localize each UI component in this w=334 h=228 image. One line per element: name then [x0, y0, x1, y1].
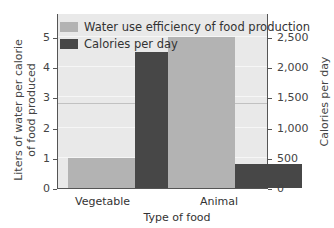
- y-tick-left: 3: [40, 92, 50, 103]
- tick-mark: [268, 98, 272, 99]
- x-category-vegetable: Vegetable: [75, 195, 130, 208]
- y-tick-right: 2,500: [277, 32, 309, 43]
- legend-item-calories: Calories per day: [60, 35, 310, 52]
- tick-mark: [268, 189, 272, 190]
- x-category-animal: Animal: [200, 195, 238, 208]
- y-axis-label-left: Liters of water per calorie of food prod…: [12, 25, 38, 195]
- y-axis-label-right: Calories per day: [318, 42, 331, 162]
- tick-mark: [53, 129, 57, 130]
- y-tick-left: 1: [40, 153, 50, 164]
- y-tick-left: 4: [40, 62, 50, 73]
- tick-mark: [53, 98, 57, 99]
- tick-mark: [268, 68, 272, 69]
- tick-mark: [53, 38, 57, 39]
- y-tick-left: 2: [40, 123, 50, 134]
- legend-item-water: Water use efficiency of food production: [60, 18, 310, 35]
- bar-animal-calories: [235, 164, 302, 188]
- y-tick-right: 1,000: [277, 123, 309, 134]
- y-tick-right: 0: [277, 183, 284, 194]
- legend-swatch-calories: [60, 39, 78, 49]
- tick-mark: [53, 68, 57, 69]
- y-tick-left: 0: [40, 183, 50, 194]
- y-tick-right: 1,500: [277, 92, 309, 103]
- y-axis-label-line1: Liters of water per calorie: [12, 25, 25, 195]
- bar-animal-water: [168, 37, 235, 188]
- legend-label-calories: Calories per day: [84, 37, 178, 51]
- bar-vegetable-water: [68, 158, 135, 188]
- tick-mark: [268, 38, 272, 39]
- y-tick-right: 2,000: [277, 62, 309, 73]
- tick-mark: [268, 129, 272, 130]
- y-tick-right: 500: [277, 153, 298, 164]
- tick-mark: [53, 189, 57, 190]
- y-tick-left: 5: [40, 32, 50, 43]
- y-axis-label-line2: of food produced: [25, 25, 38, 195]
- x-axis-label: Type of food: [0, 211, 334, 224]
- tick-mark: [53, 159, 57, 160]
- legend: Water use efficiency of food production …: [60, 18, 310, 52]
- tick-mark: [268, 159, 272, 160]
- legend-swatch-water: [60, 22, 78, 32]
